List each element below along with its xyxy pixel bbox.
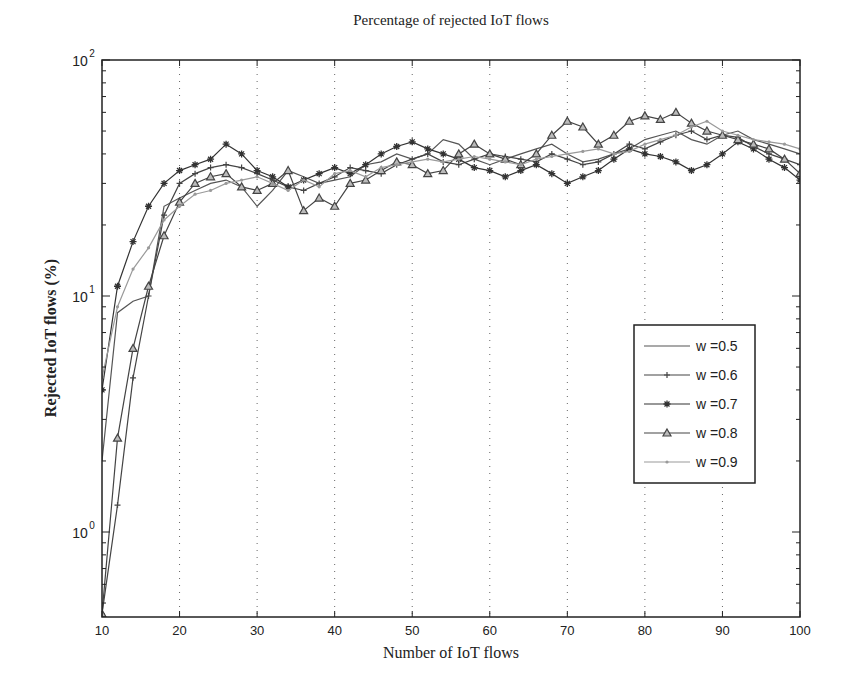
y-axis-label: Rejected IoT flows (%)	[42, 259, 60, 417]
x-tick-label: 80	[638, 623, 652, 638]
x-tick-label: 10	[95, 623, 109, 638]
y-tick-label: 10	[72, 53, 88, 69]
x-tick-label: 60	[483, 623, 497, 638]
svg-text:2: 2	[89, 48, 95, 59]
y-tick-label: 10	[72, 289, 88, 305]
legend-label: w =0.6	[695, 367, 738, 383]
chart-canvas: Percentage of rejected IoT flows Number …	[0, 0, 854, 694]
x-tick-label: 20	[172, 623, 186, 638]
legend: w =0.5w =0.6w =0.7w =0.8w =0.9	[634, 325, 755, 483]
legend-label: w =0.5	[695, 338, 738, 354]
svg-text:0: 0	[89, 520, 95, 531]
legend-label: w =0.8	[695, 425, 738, 441]
legend-label: w =0.9	[695, 454, 738, 470]
chart: Percentage of rejected IoT flows Number …	[0, 0, 854, 694]
y-tick-label: 10	[72, 525, 88, 541]
legend-label: w =0.7	[695, 396, 738, 412]
x-tick-label: 50	[405, 623, 419, 638]
chart-title: Percentage of rejected IoT flows	[353, 12, 549, 28]
x-tick-label: 100	[789, 623, 811, 638]
x-tick-label: 30	[250, 623, 264, 638]
x-tick-label: 40	[327, 623, 341, 638]
x-tick-label: 90	[715, 623, 729, 638]
x-tick-label: 70	[560, 623, 574, 638]
x-axis-label: Number of IoT flows	[383, 644, 519, 661]
svg-text:1: 1	[89, 284, 95, 295]
